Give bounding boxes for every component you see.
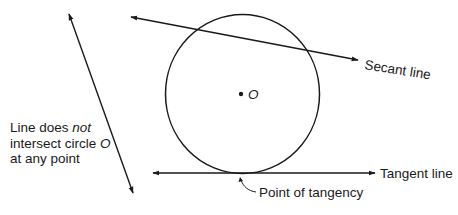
center-label: O (248, 87, 259, 102)
non-intersecting-label-line-1: Line does not (10, 120, 92, 135)
non-intersecting-label-line-3: at any point (10, 151, 80, 166)
secant-line (131, 17, 358, 60)
tangency-pointer-arrowhead-icon (239, 177, 244, 182)
non-intersecting-line (69, 14, 133, 193)
diagram-canvas: O Secant line Tangent line Point of tang… (0, 0, 458, 215)
tangent-label: Tangent line (380, 166, 453, 181)
non-intersecting-label-line-2: intersect circle O (10, 136, 111, 151)
center-point (239, 92, 243, 96)
secant-label: Secant line (364, 57, 432, 82)
diagram-svg: O Secant line Tangent line Point of tang… (0, 0, 458, 215)
point-of-tangency-label: Point of tangency (259, 185, 364, 200)
tangency-pointer (241, 180, 256, 192)
